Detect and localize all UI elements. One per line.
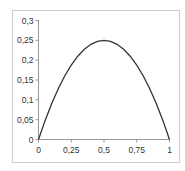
x-tick-label: 1 xyxy=(167,145,172,155)
y-tick-label: 0,2 xyxy=(22,55,34,65)
y-tick-label: 0 xyxy=(29,135,34,145)
y-tick-label: 0,15 xyxy=(17,75,34,85)
y-tick-label: 0,05 xyxy=(17,115,34,125)
y-tick-label: 0,3 xyxy=(22,16,34,26)
y-tick-label: 0,25 xyxy=(17,35,34,45)
x-tick-label: 0 xyxy=(36,145,41,155)
x-tick-label: 0,75 xyxy=(128,145,145,155)
chart: 00,050,10,150,20,250,3 00,250,50,751 xyxy=(0,0,185,171)
x-tick-label: 0,5 xyxy=(98,145,110,155)
x-tick-label: 0,25 xyxy=(63,145,80,155)
y-tick-label: 0,1 xyxy=(22,95,34,105)
